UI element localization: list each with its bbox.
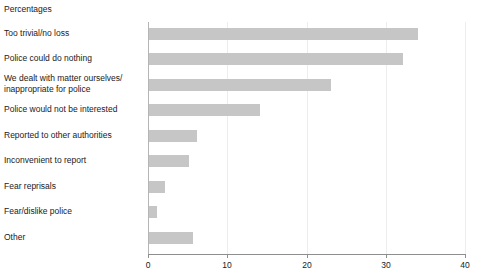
tick-mark-20: [307, 254, 308, 258]
category-label-reported-to-other-authorities: Reported to other authorities: [4, 130, 146, 141]
bar-other: [149, 232, 193, 244]
chart-title: Percentages: [4, 4, 52, 14]
bar-we-dealt-with-matter-ourselves: [149, 79, 331, 91]
x-tick-label-10: 10: [222, 260, 231, 270]
bar-fear-dislike-police: [149, 206, 157, 218]
bar-fear-reprisals: [149, 181, 165, 193]
category-label-line: inappropriate for police: [4, 84, 146, 95]
category-label-line: Police could do nothing: [4, 53, 146, 64]
category-label-line: Other: [4, 232, 146, 243]
category-label-line: Reported to other authorities: [4, 130, 146, 141]
category-label-police-would-not-be-interested: Police would not be interested: [4, 104, 146, 115]
bar-too-trivial-no-loss: [149, 28, 418, 40]
tick-mark-0: [148, 254, 149, 258]
category-label-line: We dealt with matter ourselves/: [4, 73, 146, 84]
x-tick-label-20: 20: [302, 260, 311, 270]
category-label-fear-reprisals: Fear reprisals: [4, 181, 146, 192]
category-label-other: Other: [4, 232, 146, 243]
category-label-we-dealt-with-matter-ourselves: We dealt with matter ourselves/ inapprop…: [4, 73, 146, 94]
category-label-fear-dislike-police: Fear/dislike police: [4, 206, 146, 217]
bar-chart: Percentages Too trivial/no loss Police c…: [0, 0, 481, 272]
gridline-40: [465, 22, 466, 254]
bar-reported-to-other-authorities: [149, 130, 197, 142]
bar-inconvenient-to-report: [149, 155, 189, 167]
category-label-line: Inconvenient to report: [4, 155, 146, 166]
category-label-police-could-do-nothing: Police could do nothing: [4, 53, 146, 64]
category-label-inconvenient-to-report: Inconvenient to report: [4, 155, 146, 166]
tick-mark-10: [227, 254, 228, 258]
category-label-too-trivial-no-loss: Too trivial/no loss: [4, 28, 146, 39]
plot-area: 0 10 20 30 40: [148, 22, 466, 254]
x-tick-label-30: 30: [381, 260, 390, 270]
x-tick-label-0: 0: [146, 260, 151, 270]
category-label-line: Too trivial/no loss: [4, 28, 146, 39]
x-tick-label-40: 40: [460, 260, 469, 270]
tick-mark-40: [465, 254, 466, 258]
category-label-line: Fear/dislike police: [4, 206, 146, 217]
bar-police-would-not-be-interested: [149, 104, 260, 116]
tick-mark-30: [386, 254, 387, 258]
category-label-line: Police would not be interested: [4, 104, 146, 115]
bar-police-could-do-nothing: [149, 53, 403, 65]
category-label-line: Fear reprisals: [4, 181, 146, 192]
